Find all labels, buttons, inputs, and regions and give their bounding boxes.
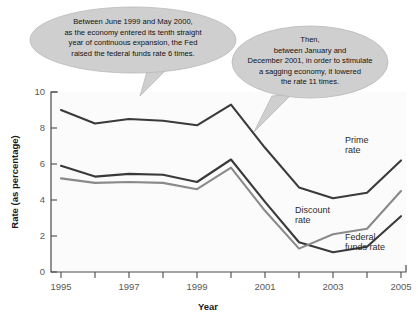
x-tick-label: 2005 — [390, 281, 411, 292]
x-tick-label: 2001 — [254, 281, 275, 292]
line-chart-svg: 0 2 4 6 8 10 1995 1997 1999 2001 — [0, 0, 418, 323]
callout-right-line: a sagging economy, it lowered — [259, 67, 361, 76]
y-tick-label: 0 — [40, 266, 45, 277]
y-axis-title: Rate (as percentage) — [9, 135, 20, 228]
callout-left-line: raised the federal funds rate 6 times. — [71, 49, 194, 58]
series-label-line1: Discount — [295, 205, 331, 215]
callout-left-line: year of continuous expansion, the Fed — [69, 38, 198, 47]
x-tick-label: 1999 — [186, 281, 207, 292]
y-tick-label: 6 — [40, 158, 45, 169]
x-tick-label: 2003 — [322, 281, 343, 292]
y-tick-label: 4 — [40, 194, 45, 205]
y-tick-label: 10 — [34, 86, 45, 97]
callout-left-line: as the economy entered its tenth straigh… — [64, 28, 202, 37]
callout-right-line: Then, — [300, 35, 319, 44]
x-tick-label: 1995 — [50, 281, 71, 292]
x-tick-label: 1997 — [118, 281, 139, 292]
callout-right-line: the rate 11 times. — [281, 77, 339, 86]
series-label-line2: funds rate — [345, 242, 385, 252]
chart-figure: 0 2 4 6 8 10 1995 1997 1999 2001 — [0, 0, 418, 323]
series-label-line2: rate — [295, 215, 311, 225]
x-axis-title: Year — [198, 301, 218, 312]
series-label-line1: Federal — [345, 232, 376, 242]
callout-left-line: Between June 1999 and May 2000, — [73, 17, 192, 26]
callout-right-line: December 2001, in order to stimulate — [248, 56, 373, 65]
callout-right-line: between January and — [274, 46, 347, 55]
series-label-line1: Prime — [345, 135, 369, 145]
y-tick-label: 2 — [40, 230, 45, 241]
series-label-line2: rate — [345, 145, 361, 155]
y-tick-label: 8 — [40, 122, 45, 133]
